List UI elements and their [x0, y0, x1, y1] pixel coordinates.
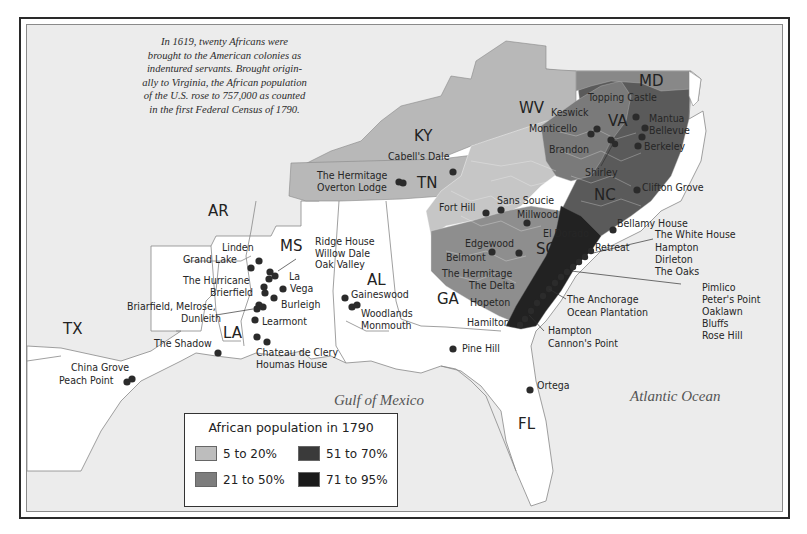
state-label-ar: AR	[208, 202, 229, 220]
label-the-hermitage-ga: The Hermitage	[441, 267, 513, 279]
state-label-fl: FL	[518, 415, 536, 433]
delaware	[689, 71, 701, 106]
legend-swatch-dark	[298, 446, 320, 461]
label-keswick: Keswick	[551, 106, 589, 118]
label-hopeton: Hopeton	[470, 296, 510, 308]
label-bluffs: Bluffs	[702, 317, 729, 329]
legend-item-21-50: 21 to 50%	[195, 472, 285, 487]
intro-line: ally to Virginia, the African population	[112, 76, 337, 90]
label-pine-hill: Pine Hill	[462, 342, 500, 354]
gulf-of-mexico-label: Gulf of Mexico	[334, 392, 424, 408]
label-china-grove: China Grove	[71, 361, 129, 373]
label-bellevue: Bellevue	[649, 124, 690, 136]
label-oak-valley: Oak Valley	[315, 258, 365, 270]
intro-line: brought to the American colonies as	[112, 49, 337, 63]
label-topping-castle: Topping Castle	[587, 91, 657, 103]
label-millwood: Millwood	[517, 208, 558, 220]
legend-swatch-light	[195, 446, 217, 461]
label-berkeley: Berkeley	[644, 140, 686, 152]
label-gaineswood: Gaineswood	[351, 288, 409, 300]
label-the-delta: The Delta	[468, 279, 515, 291]
label-fort-hill: Fort Hill	[439, 201, 475, 213]
legend-swatch-medium	[195, 472, 217, 487]
label-chateau-de-clery: Chateau de Clery	[256, 346, 338, 358]
label-ridge-house: Ridge House	[315, 235, 375, 247]
map-frame: KY WV MD VA TN NC AR MS AL SC GA LA TX F…	[19, 17, 790, 519]
state-label-va: VA	[608, 112, 628, 130]
label-la: La	[289, 270, 300, 282]
label-hampton-ga: Hampton	[548, 324, 592, 336]
state-label-al: AL	[367, 271, 386, 289]
state-label-tx: TX	[62, 320, 82, 338]
legend-swatch-darkest	[298, 472, 320, 487]
label-rose-hill: Rose Hill	[702, 329, 743, 341]
label-the-shadow: The Shadow	[153, 337, 212, 349]
state-label-la: LA	[223, 324, 243, 342]
state-label-md: MD	[639, 72, 664, 90]
legend: African population in 1790 5 to 20% 51 t…	[184, 413, 398, 507]
label-belmont: Belmont	[446, 251, 486, 263]
label-monmouth: Monmouth	[361, 319, 412, 331]
label-mantua: Mantua	[649, 112, 684, 124]
label-brandon: Brandon	[549, 143, 589, 155]
label-vega: Vega	[290, 282, 313, 294]
label-burleigh: Burleigh	[281, 298, 320, 310]
label-grand-lake: Grand Lake	[183, 253, 237, 265]
label-overton-lodge: Overton Lodge	[317, 181, 387, 193]
label-hampton-sc: Hampton	[655, 241, 699, 253]
label-edgewood: Edgewood	[465, 237, 514, 249]
label-woodlands: Woodlands	[361, 307, 413, 319]
state-label-wv: WV	[519, 99, 545, 117]
label-the-hurricane: The Hurricane	[182, 274, 250, 286]
state-label-sc: SC	[536, 240, 556, 258]
legend-item-51-70: 51 to 70%	[298, 446, 388, 461]
label-houmas-house: Houmas House	[256, 358, 328, 370]
map-canvas: KY WV MD VA TN NC AR MS AL SC GA LA TX F…	[26, 24, 783, 512]
label-briarfield-melrose: Briarfield, Melrose,	[127, 300, 216, 312]
label-dunleith: Dunleith	[181, 312, 221, 324]
legend-item-71-95: 71 to 95%	[298, 472, 388, 487]
intro-line: in the first Federal Census of 1790.	[112, 103, 337, 117]
label-peters-point: Peter's Point	[702, 293, 761, 305]
label-retreat: Retreat	[595, 241, 630, 253]
label-monticello: Monticello	[529, 122, 578, 134]
state-label-ky: KY	[414, 127, 433, 145]
label-the-anchorage: The Anchorage	[566, 293, 639, 305]
label-oaklawn: Oaklawn	[702, 305, 743, 317]
state-label-nc: NC	[594, 186, 616, 204]
state-label-tn: TN	[416, 174, 437, 192]
label-shirley: Shirley	[585, 166, 618, 178]
intro-line: indentured servants. Brought origin-	[112, 62, 337, 76]
legend-label: 5 to 20%	[223, 447, 277, 461]
label-pimlico: Pimlico	[702, 281, 736, 293]
label-brierfield: Brierfield	[210, 286, 253, 298]
atlantic-ocean-label: Atlantic Ocean	[629, 388, 720, 404]
legend-label: 21 to 50%	[223, 473, 285, 487]
legend-item-5-20: 5 to 20%	[195, 446, 277, 461]
label-the-oaks: The Oaks	[654, 265, 699, 277]
label-ortega: Ortega	[537, 379, 570, 391]
label-el-dorado: El Dorado	[543, 227, 589, 239]
label-cabells-dale: Cabell's Dale	[388, 150, 450, 162]
intro-line: of the U.S. rose to 757,000 as counted	[112, 89, 337, 103]
label-sans-soucie: Sans Soucie	[497, 194, 554, 206]
label-linden: Linden	[222, 241, 254, 253]
state-label-ga: GA	[437, 290, 460, 308]
label-clifton-grove: Clifton Grove	[642, 181, 704, 193]
label-learmont: Learmont	[262, 315, 307, 327]
label-dirleton: Dirleton	[655, 253, 693, 265]
label-cannons-point: Cannon's Point	[548, 337, 618, 349]
legend-label: 51 to 70%	[326, 447, 388, 461]
label-ocean-plantation: Ocean Plantation	[567, 306, 648, 318]
label-peach-point: Peach Point	[59, 374, 114, 386]
label-the-hermitage-tn: The Hermitage	[316, 169, 388, 181]
label-the-white-house: The White House	[654, 228, 736, 240]
legend-title: African population in 1790	[185, 420, 397, 435]
label-hamilton: Hamilton	[467, 316, 510, 328]
intro-line: In 1619, twenty Africans were	[112, 35, 337, 49]
legend-label: 71 to 95%	[326, 473, 388, 487]
intro-caption: In 1619, twenty Africans were brought to…	[112, 35, 337, 117]
state-label-ms: MS	[280, 237, 302, 255]
